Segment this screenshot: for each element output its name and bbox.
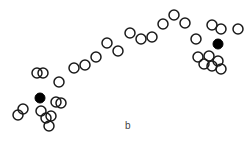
data-point [147, 32, 157, 42]
data-point [216, 24, 226, 34]
data-point [113, 46, 123, 56]
centroid-point [213, 39, 223, 49]
centroid-point [35, 93, 45, 103]
data-point [80, 60, 90, 70]
data-point [233, 24, 243, 34]
open-circle-points [13, 10, 243, 131]
filled-centroid-points [35, 39, 223, 103]
data-point [180, 18, 190, 28]
data-point [36, 106, 46, 116]
data-point [169, 10, 179, 20]
panel-label: b [125, 120, 131, 131]
data-point [125, 28, 135, 38]
data-point [69, 63, 79, 73]
data-point [158, 19, 168, 29]
data-point [136, 34, 146, 44]
data-point [102, 38, 112, 48]
data-point [91, 52, 101, 62]
data-point [38, 68, 48, 78]
data-point [191, 34, 201, 44]
data-point [54, 77, 64, 87]
